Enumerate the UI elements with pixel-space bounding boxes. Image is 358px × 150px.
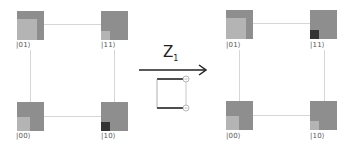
node-00	[17, 102, 44, 131]
operation-arrow-group: Z1	[130, 40, 220, 120]
state-label-10: |10⟩	[310, 132, 325, 140]
node-10	[101, 102, 128, 131]
edge-top	[253, 23, 310, 24]
node-10	[310, 101, 337, 130]
amplitude-fill	[226, 18, 246, 39]
after-state-panel: |01⟩ |11⟩ |00⟩ |10⟩	[218, 0, 358, 150]
amplitude-fill	[101, 31, 110, 40]
edge-bottom	[43, 116, 101, 117]
state-label-00: |00⟩	[16, 132, 31, 140]
node-00	[226, 101, 253, 130]
edge-right	[324, 50, 325, 102]
before-state-panel: |01⟩ |11⟩ |00⟩ |10⟩	[0, 0, 140, 150]
node-11	[310, 10, 337, 39]
state-label-11: |11⟩	[310, 41, 325, 49]
edge-bottom	[253, 115, 310, 116]
edge-top	[43, 24, 101, 25]
edge-right	[114, 50, 115, 102]
state-label-01: |01⟩	[16, 41, 31, 49]
node-01	[226, 10, 253, 39]
state-label-11: |11⟩	[101, 41, 116, 49]
state-label-01: |01⟩	[226, 41, 241, 49]
amplitude-fill	[17, 117, 30, 131]
state-label-00: |00⟩	[226, 132, 241, 140]
amplitude-fill	[17, 19, 37, 40]
node-01	[17, 11, 44, 40]
amplitude-fill	[310, 121, 319, 130]
amplitude-fill	[226, 116, 239, 130]
arrow-right-icon	[130, 40, 220, 120]
amplitude-fill	[101, 122, 110, 131]
state-label-10: |10⟩	[101, 132, 116, 140]
edge-left	[30, 50, 31, 102]
edge-left	[239, 50, 240, 102]
node-11	[101, 11, 128, 40]
amplitude-fill	[310, 30, 319, 39]
